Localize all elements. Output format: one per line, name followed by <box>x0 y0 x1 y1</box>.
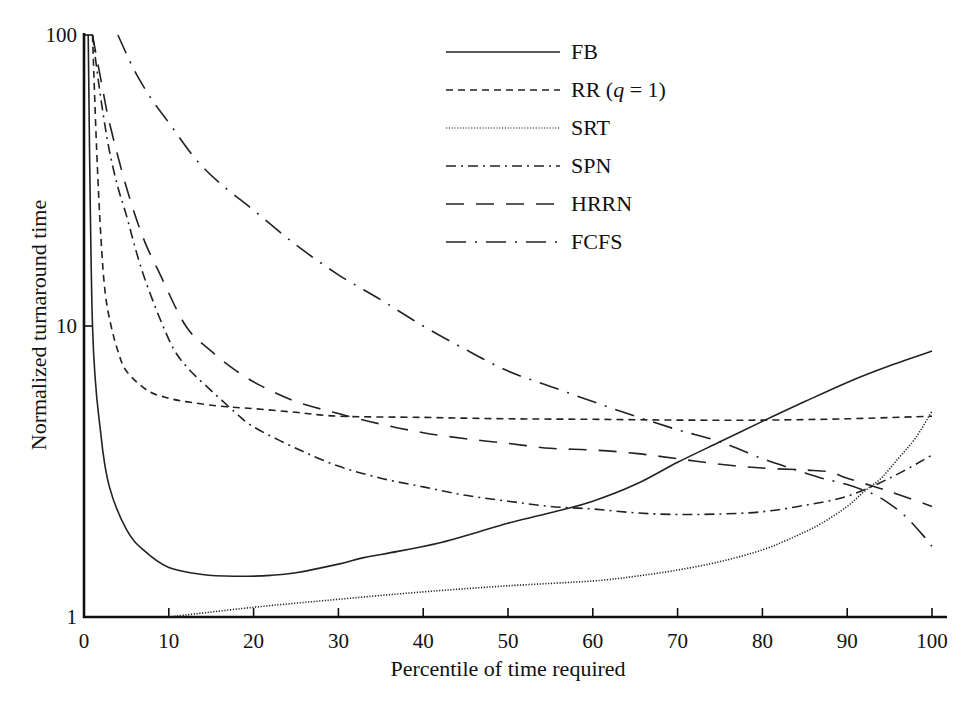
x-tick-label: 40 <box>413 629 434 653</box>
x-tick-label: 100 <box>916 629 948 653</box>
x-ticks: 0102030405060708090100 <box>79 608 948 653</box>
legend-label: SRT <box>571 115 611 140</box>
series-spn <box>93 35 933 515</box>
legend-item: FB <box>446 39 598 64</box>
x-tick-label: 20 <box>243 629 264 653</box>
chart: 0102030405060708090100 110100 Normalized… <box>0 0 971 706</box>
x-tick-label: 70 <box>667 629 688 653</box>
legend-item: SPN <box>446 153 611 178</box>
x-tick-label: 50 <box>498 629 519 653</box>
x-tick-label: 30 <box>328 629 349 653</box>
x-tick-label: 90 <box>837 629 858 653</box>
legend-label: FB <box>571 39 598 64</box>
legend-item: SRT <box>446 115 611 140</box>
y-tick-label: 10 <box>56 314 77 338</box>
series-group <box>88 35 932 617</box>
y-tick-label: 100 <box>46 23 78 47</box>
axes: 0102030405060708090100 110100 Normalized… <box>26 23 948 681</box>
legend: FBRR (q = 1)SRTSPNHRRNFCFS <box>446 39 666 254</box>
x-tick-label: 80 <box>752 629 773 653</box>
series-fb <box>88 35 932 576</box>
y-tick-label: 1 <box>67 605 78 629</box>
legend-label: RR (q = 1) <box>571 77 666 102</box>
legend-item: FCFS <box>446 229 622 254</box>
x-tick-label: 0 <box>79 629 90 653</box>
series-hrrn <box>93 35 933 506</box>
legend-label: SPN <box>571 153 611 178</box>
legend-label: HRRN <box>571 191 632 216</box>
series-rr-q-1 <box>93 35 933 420</box>
x-tick-label: 60 <box>582 629 603 653</box>
legend-item: HRRN <box>446 191 632 216</box>
x-tick-label: 10 <box>158 629 179 653</box>
y-axis-label: Normalized turnaround time <box>26 200 51 450</box>
y-ticks: 110100 <box>46 23 94 629</box>
legend-label: FCFS <box>571 229 622 254</box>
x-axis-label: Percentile of time required <box>390 656 625 681</box>
legend-item: RR (q = 1) <box>446 77 666 102</box>
